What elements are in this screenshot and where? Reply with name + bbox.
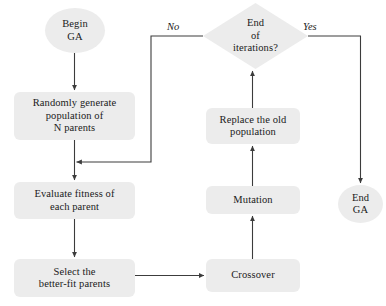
node-end-of-iterations-shape [203, 3, 308, 69]
node-select-better-fit-shape [14, 259, 135, 297]
flowchart-graphics [0, 0, 386, 306]
edge-yes-branch-to-end [308, 36, 361, 183]
node-randomly-generate-shape [14, 92, 135, 140]
edge-label-no: No [167, 21, 179, 33]
flowchart-canvas: Begin GA Randomly generate population of… [0, 0, 386, 306]
node-replace-population-shape [206, 108, 300, 144]
edge-label-yes: Yes [303, 21, 317, 33]
node-begin-shape [45, 8, 105, 53]
node-end-shape [338, 185, 383, 223]
node-crossover-shape [206, 259, 300, 292]
node-evaluate-fitness-shape [14, 182, 135, 219]
node-mutation-shape [206, 186, 300, 214]
